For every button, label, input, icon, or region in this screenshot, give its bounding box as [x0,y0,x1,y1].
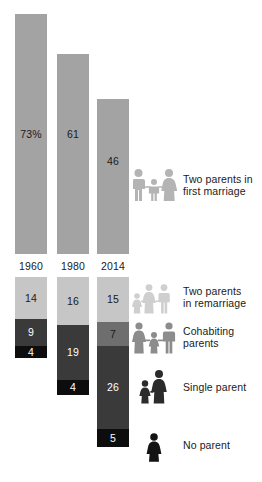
legend-item-no-parent[interactable]: No parent [131,428,230,462]
bottom-bar-2014: 15 7 26 5 [97,277,129,447]
top-bar-value-1960: 73% [20,129,41,140]
bottom-bar-1980: 16 19 4 [57,277,89,395]
segment-value: 16 [67,296,79,307]
bottom-segment-cohabiting: 7 [97,322,129,346]
legend-label: Single parent [183,381,246,394]
top-bar-1960: 73% [15,14,47,254]
bottom-segment-remarriage: 14 [15,277,47,319]
no-parent-icon [131,428,177,462]
top-bar-segment-first-marriage: 61 [57,54,89,254]
segment-value: 7 [110,329,116,340]
top-bar-2014: 46 [97,99,129,254]
top-bar-segment-first-marriage: 73% [15,14,47,254]
segment-value: 14 [25,293,37,304]
segment-value: 19 [67,347,79,358]
bottom-segment-no-parent: 4 [15,346,47,358]
bottom-segment-single-parent: 26 [97,346,129,429]
segment-value: 9 [28,327,34,338]
single-parent-icon [131,370,177,404]
two-parents-remarriage-icon [131,280,177,314]
bottom-segment-remarriage: 16 [57,277,89,325]
legend-label: Two parents in first marriage [183,173,253,198]
legend-item-two-parents-remarriage[interactable]: Two parents in remarriage [131,280,246,314]
bottom-segment-remarriage: 15 [97,277,129,322]
year-label-1960: 1960 [8,261,54,272]
legend-label: Two parents in remarriage [183,285,246,310]
segment-value: 5 [110,433,116,444]
stacked-bar-chart: 73% 61 46 1960 1980 2014 14 9 4 16 19 [0,0,262,482]
segment-value: 26 [107,382,119,393]
segment-value: 4 [70,382,76,393]
bottom-segment-no-parent: 5 [97,429,129,447]
top-bar-value-1980: 61 [67,129,79,140]
bottom-segment-no-parent: 4 [57,380,89,395]
two-parents-first-marriage-icon [131,168,177,202]
segment-value: 15 [107,294,119,305]
legend-item-two-parents-first-marriage[interactable]: Two parents in first marriage [131,168,253,202]
bottom-segment-single-parent: 19 [57,325,89,380]
top-bar-1980: 61 [57,54,89,254]
top-bar-segment-first-marriage: 46 [97,99,129,254]
legend-label: Cohabiting parents [183,325,234,350]
top-bar-value-2014: 46 [107,156,119,167]
cohabiting-parents-icon [131,320,177,354]
legend-item-single-parent[interactable]: Single parent [131,370,246,404]
bottom-bar-1960: 14 9 4 [15,277,47,358]
legend-label: No parent [183,439,230,452]
year-label-2014: 2014 [90,261,136,272]
bottom-segment-single-parent: 9 [15,319,47,346]
segment-value: 4 [28,347,34,358]
legend-item-cohabiting-parents[interactable]: Cohabiting parents [131,320,234,354]
